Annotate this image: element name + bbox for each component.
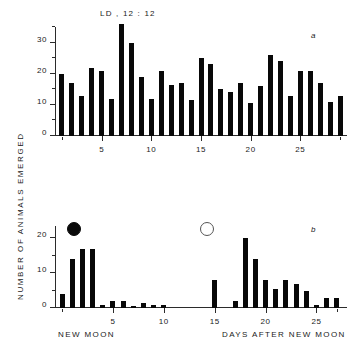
y-tick-label: 10: [27, 265, 47, 274]
bar: [338, 96, 343, 136]
x-tick-label: 20: [261, 317, 271, 326]
bar: [189, 100, 194, 136]
bar: [268, 55, 273, 136]
bar: [179, 83, 184, 136]
bar: [294, 284, 299, 309]
bar: [90, 249, 95, 309]
bar: [129, 43, 134, 136]
x-tick-minor: [337, 309, 338, 312]
bar: [69, 83, 74, 136]
x-tick-label: 10: [146, 145, 156, 154]
x-tick-major: [215, 308, 216, 313]
bar: [70, 259, 75, 308]
x-tick-label: 20: [246, 145, 256, 154]
x-tick-major: [164, 308, 165, 313]
x-tick-major: [300, 136, 301, 141]
bar: [273, 289, 278, 308]
x-tick-label: 15: [210, 317, 220, 326]
bar: [304, 291, 309, 309]
bar: [79, 96, 84, 136]
bar: [253, 259, 258, 308]
y-tick-minor: [52, 57, 55, 58]
y-tick-label: 10: [27, 96, 47, 105]
bar: [258, 86, 263, 136]
y-tick-major: [50, 272, 55, 273]
bar: [80, 249, 85, 309]
bar: [100, 305, 105, 309]
bar: [119, 24, 124, 136]
y-tick-label: 0: [27, 128, 47, 137]
bar: [141, 303, 146, 308]
x-tick-major: [316, 308, 317, 313]
x-tick-major: [113, 308, 114, 313]
figure-container: NUMBER OF ANIMALS EMERGED LD , 12 : 12 a…: [0, 0, 358, 363]
x-tick-label: 25: [295, 145, 305, 154]
bar: [131, 306, 136, 308]
bar: [89, 68, 94, 136]
panel-a-title: LD , 12 : 12: [100, 9, 156, 18]
y-axis-line: [55, 226, 56, 308]
bar: [283, 280, 288, 308]
panel-b-plot-area: 01020510152025: [55, 224, 347, 308]
bar: [109, 99, 114, 136]
x-tick-major: [201, 136, 202, 141]
y-tick-label: 20: [27, 65, 47, 74]
y-tick-label: 0: [27, 300, 47, 309]
new-moon-symbol: [67, 222, 81, 236]
x-tick-minor: [340, 137, 341, 140]
bar: [151, 305, 156, 309]
bar: [59, 74, 64, 136]
panel-a: LD , 12 : 12 a 0102030510152025: [0, 0, 358, 180]
x-tick-major: [102, 136, 103, 141]
y-tick-label: 20: [27, 230, 47, 239]
x-tick-label: 25: [311, 317, 321, 326]
y-axis-line: [55, 27, 56, 136]
bar: [212, 280, 217, 308]
y-tick-minor: [52, 255, 55, 256]
bar: [298, 71, 303, 136]
panel-b: b 01020510152025 NEW MOON DAYS AFTER NEW…: [0, 180, 358, 363]
bar: [161, 305, 166, 309]
bar: [278, 61, 283, 136]
x-tick-label: 15: [196, 145, 206, 154]
y-tick-major: [50, 42, 55, 43]
bar: [60, 294, 65, 308]
bar: [149, 99, 154, 136]
bar: [328, 102, 333, 136]
y-tick-minor: [52, 290, 55, 291]
bar: [218, 89, 223, 136]
bar: [288, 96, 293, 136]
x-tick-minor: [62, 137, 63, 140]
x-tick-minor: [62, 309, 63, 312]
bar: [238, 83, 243, 136]
bar: [110, 301, 115, 308]
panel-a-plot-area: 0102030510152025: [55, 24, 347, 136]
bar: [324, 298, 329, 309]
bar: [169, 85, 174, 136]
y-tick-major: [50, 307, 55, 308]
y-tick-minor: [52, 119, 55, 120]
x-axis-label-right: DAYS AFTER NEW MOON: [222, 330, 346, 339]
bar: [159, 71, 164, 136]
x-tick-label: 5: [110, 317, 115, 326]
x-tick-label: 5: [99, 145, 104, 154]
y-tick-minor: [52, 26, 55, 27]
bar: [233, 301, 238, 308]
x-tick-label: 10: [159, 317, 169, 326]
bar: [263, 280, 268, 308]
bar: [121, 301, 126, 308]
bar: [248, 103, 253, 136]
bar: [208, 64, 213, 136]
y-tick-major: [50, 237, 55, 238]
bar: [318, 83, 323, 136]
y-tick-label: 30: [27, 34, 47, 43]
bar: [314, 305, 319, 309]
y-tick-major: [50, 104, 55, 105]
y-tick-major: [50, 135, 55, 136]
y-tick-minor: [52, 88, 55, 89]
x-axis-label-left: NEW MOON: [58, 330, 115, 339]
bar: [308, 71, 313, 136]
bar: [243, 238, 248, 308]
bar: [199, 58, 204, 136]
bar: [228, 92, 233, 136]
